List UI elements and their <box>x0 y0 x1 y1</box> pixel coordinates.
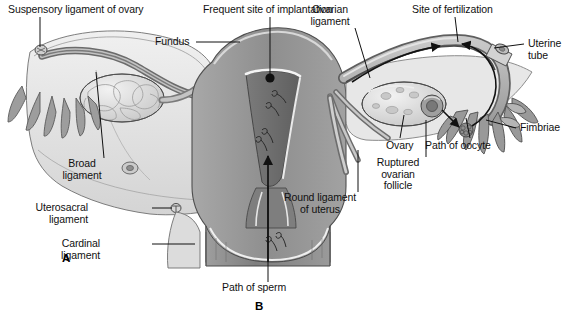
ovarian-ligament: Ovarian ligament <box>311 4 350 27</box>
panel-a: A <box>62 252 70 264</box>
site-of-fertilization: Site of fertilization <box>412 4 493 16</box>
right-ovary <box>362 82 446 126</box>
path-of-sperm: Path of sperm <box>222 282 286 294</box>
path-of-oocyte: Path of oocyte <box>425 140 491 152</box>
ruptured-ovarian-follicle: Ruptured ovarian follicle <box>377 157 419 192</box>
uterosacral-ligament: Uterosacral ligament <box>35 202 88 225</box>
broad-ligament: Broad ligament <box>63 158 102 181</box>
anatomy-figure: Suspensory ligament of ovaryFrequent sit… <box>0 0 581 315</box>
uterosacral-ligament-marker <box>171 204 181 213</box>
oocyte <box>459 123 473 137</box>
suspensory-ligament-knot <box>35 45 47 55</box>
fundus: Fundus <box>155 36 189 48</box>
implantation-site-dot <box>265 73 274 82</box>
broad-ligament-vessel <box>122 162 138 174</box>
uterus <box>192 28 346 266</box>
uterine-tube: Uterine tube <box>528 38 561 61</box>
fimbriae: Fimbriae <box>520 122 560 134</box>
suspensory-ligament-of-ovary: Suspensory ligament of ovary <box>8 4 144 16</box>
cardinal-ligament-sheet <box>167 212 200 268</box>
round-ligament-of-uterus: Round ligament of uterus <box>284 192 356 215</box>
ovary: Ovary <box>386 140 414 152</box>
panel-b: B <box>255 300 263 312</box>
